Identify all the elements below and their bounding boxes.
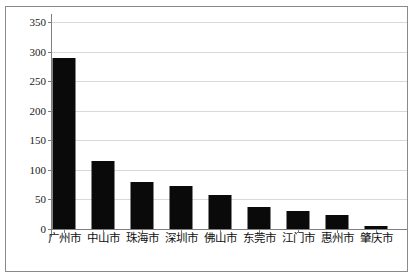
x-tick-label: 肇庆市: [360, 233, 393, 245]
y-tick-label: 300: [30, 46, 47, 57]
gridline: [52, 140, 407, 141]
y-tick-mark: [48, 22, 52, 23]
bar: [326, 215, 349, 229]
y-tick-label: 250: [30, 76, 47, 87]
bar: [287, 211, 310, 229]
y-tick-mark: [48, 81, 52, 82]
bar: [131, 182, 154, 229]
y-tick-mark: [48, 170, 52, 171]
y-tick-label: 350: [30, 17, 47, 28]
y-tick-mark: [48, 52, 52, 53]
bar: [209, 195, 232, 229]
x-tick-mark: [298, 229, 299, 233]
x-axis-line: [51, 229, 407, 230]
y-tick-mark: [48, 111, 52, 112]
x-tick-label: 中山市: [87, 233, 120, 245]
x-tick-mark: [259, 229, 260, 233]
x-tick-mark: [103, 229, 104, 233]
x-tick-mark: [142, 229, 143, 233]
bar: [248, 207, 271, 229]
x-tick-label: 江门市: [282, 233, 315, 245]
y-tick-label: 0: [41, 224, 47, 235]
bar: [170, 186, 193, 229]
y-tick-label: 100: [30, 164, 47, 175]
gridline: [52, 81, 407, 82]
y-tick-label: 200: [30, 105, 47, 116]
x-tick-label: 惠州市: [321, 233, 354, 245]
x-tick-mark: [220, 229, 221, 233]
x-tick-mark: [181, 229, 182, 233]
x-tick-mark: [337, 229, 338, 233]
x-tick-label: 广州市: [48, 233, 81, 245]
gridline: [52, 22, 407, 23]
x-tick-label: 珠海市: [126, 233, 159, 245]
chart-figure: 050100150200250300350 广州市中山市珠海市深圳市佛山市东莞市…: [5, 6, 408, 272]
x-tick-mark: [64, 229, 65, 233]
gridline: [52, 52, 407, 53]
bar: [92, 161, 115, 229]
bar: [53, 58, 76, 230]
plot-area: 050100150200250300350 广州市中山市珠海市深圳市佛山市东莞市…: [52, 22, 407, 229]
y-tick-mark: [48, 199, 52, 200]
gridline: [52, 111, 407, 112]
x-tick-mark: [376, 229, 377, 233]
x-tick-label: 东莞市: [243, 233, 276, 245]
x-tick-label: 深圳市: [165, 233, 198, 245]
x-tick-label: 佛山市: [204, 233, 237, 245]
y-tick-label: 150: [30, 135, 47, 146]
y-tick-mark: [48, 140, 52, 141]
y-tick-mark: [48, 229, 52, 230]
y-tick-label: 50: [35, 194, 46, 205]
